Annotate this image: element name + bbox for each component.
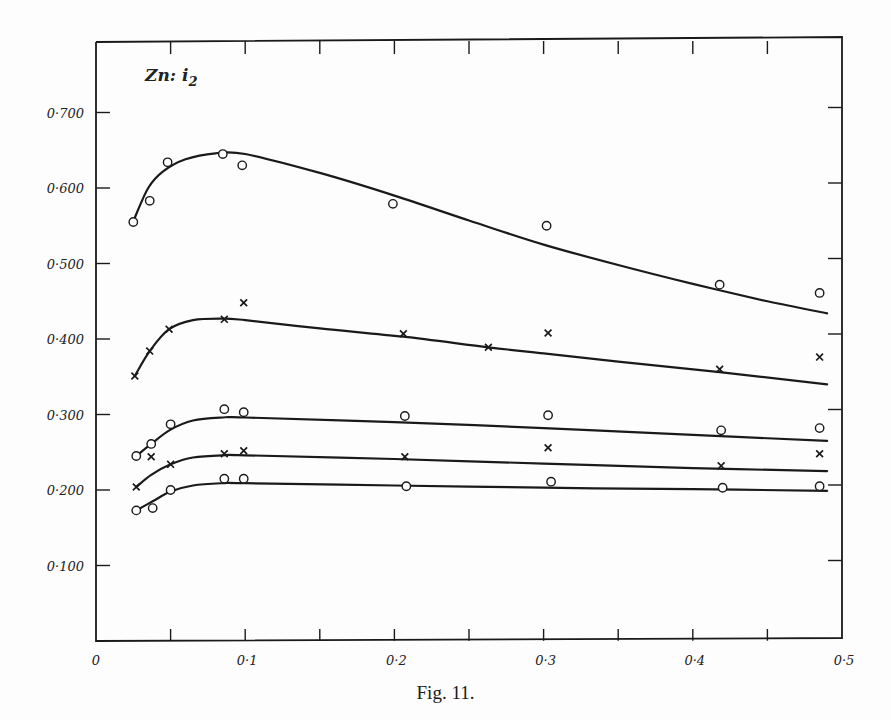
y-tick-label: 0·400 <box>47 332 84 347</box>
series-2-curve <box>135 319 827 385</box>
circle-marker <box>401 412 409 420</box>
panel-label: Zn: i2 <box>144 65 197 89</box>
cross-marker <box>545 444 552 451</box>
circle-marker <box>718 484 726 492</box>
circle-marker <box>132 452 140 460</box>
circle-marker <box>129 218 137 226</box>
fit-curves <box>133 152 827 510</box>
circle-marker <box>220 405 228 413</box>
circle-marker <box>715 280 723 288</box>
circle-marker <box>166 420 174 428</box>
y-tick-label: 0·600 <box>47 181 84 196</box>
circle-marker <box>547 477 555 485</box>
data-markers <box>129 150 824 515</box>
axis-tick-labels: 0·1000·2000·3000·4000·5000·6000·70000·10… <box>47 106 855 669</box>
cross-marker <box>148 453 155 460</box>
plot-frame-border <box>96 37 842 641</box>
circle-marker <box>717 426 725 434</box>
x-tick-label: 0·3 <box>535 653 556 668</box>
circle-marker <box>542 222 550 230</box>
y-tick-label: 0·500 <box>47 257 84 272</box>
circle-marker <box>389 200 397 208</box>
circle-marker <box>166 486 174 494</box>
circle-marker <box>238 161 246 169</box>
y-tick-label: 0·100 <box>47 559 84 574</box>
circle-marker <box>240 474 248 482</box>
cross-marker <box>816 450 823 457</box>
circle-marker <box>815 424 823 432</box>
chart-figure: 0·1000·2000·3000·4000·5000·6000·70000·10… <box>0 0 891 720</box>
cross-marker <box>146 348 153 355</box>
circle-marker <box>148 504 156 512</box>
cross-marker <box>816 354 823 361</box>
x-tick-label: 0·1 <box>237 653 258 668</box>
cross-marker <box>545 330 552 337</box>
circle-marker <box>163 158 171 166</box>
x-tick-label: 0·5 <box>834 653 855 668</box>
circle-marker <box>132 506 140 514</box>
x-tick-label: 0·4 <box>684 653 705 668</box>
cross-marker <box>166 326 173 333</box>
circle-marker <box>146 197 154 205</box>
cross-marker <box>133 484 140 491</box>
circle-marker <box>544 411 552 419</box>
y-tick-label: 0·700 <box>47 106 84 121</box>
y-tick-label: 0·200 <box>47 483 84 498</box>
circle-marker <box>219 150 227 158</box>
cross-marker <box>131 373 138 380</box>
y-tick-label: 0·300 <box>47 408 84 423</box>
figure-caption: Fig. 11. <box>0 682 891 704</box>
cross-marker <box>240 447 247 454</box>
circle-marker <box>815 482 823 490</box>
series-3-curve <box>136 417 827 456</box>
x-tick-label: 0 <box>92 653 100 668</box>
circle-marker <box>147 440 155 448</box>
cross-marker <box>240 299 247 306</box>
series-1-curve <box>133 152 827 313</box>
axis-ticks <box>96 41 842 641</box>
circle-marker <box>240 408 248 416</box>
plot-frame <box>96 37 842 641</box>
x-tick-label: 0·2 <box>386 653 407 668</box>
circle-marker <box>815 289 823 297</box>
circle-marker <box>402 482 410 490</box>
circle-marker <box>220 474 228 482</box>
